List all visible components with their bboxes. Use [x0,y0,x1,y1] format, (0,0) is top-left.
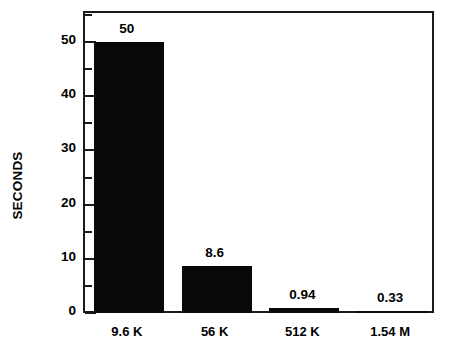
bar-value-label: 8.6 [165,246,265,260]
bar [182,266,252,313]
x-axis-tick-label: 512 K [252,325,352,338]
x-axis-tick-label: 9.6 K [77,325,177,338]
x-axis-tick-label: 56 K [165,325,265,338]
y-axis-title: SECONDS [10,136,25,236]
y-axis-tick-label: 10 [36,250,76,264]
bar [357,311,427,313]
x-axis-tick-label: 1.54 M [340,325,440,338]
y-axis-minor-tick [85,14,92,16]
y-axis-minor-tick [85,231,92,233]
bar-value-label: 0.33 [340,291,440,305]
bar [269,308,339,313]
bar [94,42,164,313]
y-axis-tick-labels: 01020304050 [30,0,76,354]
plot-area [83,11,434,313]
y-axis-minor-tick [85,285,92,287]
y-axis-tick-label: 40 [36,87,76,101]
y-axis-minor-tick [85,177,92,179]
y-axis-tick-label: 30 [36,141,76,155]
bar-value-label: 50 [77,22,177,36]
y-axis-minor-tick [85,68,92,70]
bar-chart-figure: SECONDS 01020304050 9.6 K56 K512 K1.54 M… [0,0,452,354]
bar-value-label: 0.94 [252,288,352,302]
y-axis-minor-tick [85,122,92,124]
y-axis-tick-label: 50 [36,33,76,47]
y-axis-tick-label: 20 [36,196,76,210]
y-axis-tick-label: 0 [36,304,76,318]
